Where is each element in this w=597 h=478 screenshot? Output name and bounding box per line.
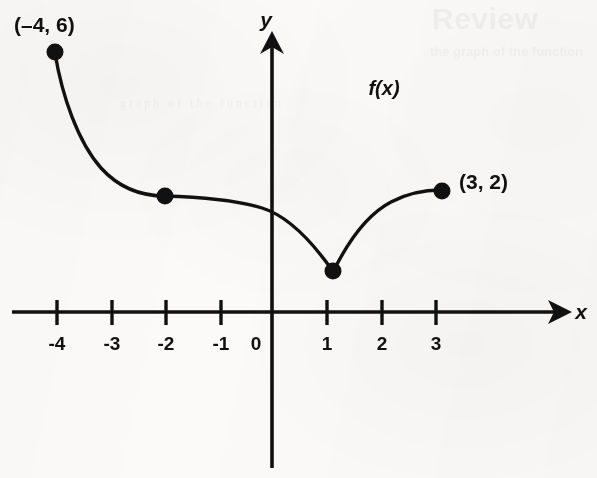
function-curve-right-branch <box>334 190 441 270</box>
function-curve-left-branch <box>55 53 332 270</box>
tick-label-origin: 0 <box>251 333 262 354</box>
point-right-endpoint <box>434 183 451 200</box>
label-function-name: f(x) <box>368 77 399 99</box>
label-left-endpoint-coordinates: (–4, 6) <box>14 13 75 36</box>
label-right-endpoint-coordinates: (3, 2) <box>459 170 508 193</box>
point-minimum <box>325 263 342 280</box>
coordinate-plane: -4 -3 -2 -1 0 1 2 3 x y (–4, 6) (3, 2 <box>0 0 597 478</box>
tick-label-minus-3: -3 <box>104 333 121 354</box>
tick-label-minus-1: -1 <box>213 333 230 354</box>
graph-figure: Review the graph of the function graph o… <box>0 0 597 478</box>
x-axis <box>12 300 572 324</box>
tick-label-minus-2: -2 <box>158 333 175 354</box>
tick-label-minus-4: -4 <box>49 333 66 354</box>
x-axis-label: x <box>574 300 588 323</box>
y-axis <box>260 31 284 468</box>
y-axis-label: y <box>259 8 273 31</box>
point-interior-x-minus-2 <box>157 188 174 205</box>
tick-label-3: 3 <box>431 333 442 354</box>
tick-label-1: 1 <box>322 333 333 354</box>
point-left-endpoint <box>47 44 64 61</box>
tick-label-2: 2 <box>377 333 388 354</box>
x-axis-tick-labels: -4 -3 -2 -1 0 1 2 3 <box>49 333 442 354</box>
